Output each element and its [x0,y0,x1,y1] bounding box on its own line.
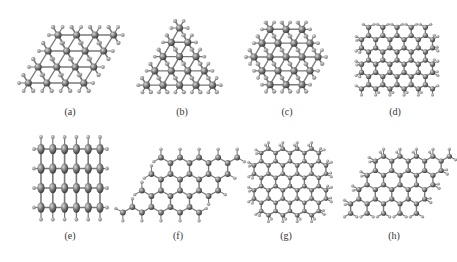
heavy-atom [25,79,32,86]
heavy-atom [381,182,386,187]
hydrogen-atom [344,203,347,206]
hydrogen-atom [47,33,51,37]
hydrogen-atom [77,73,81,77]
heavy-atom [259,151,264,156]
hydrogen-atom [21,73,25,77]
hydrogen-atom [152,160,155,163]
hydrogen-atom [437,187,440,190]
heavy-atom [316,200,321,205]
heavy-atom [430,173,435,178]
heavy-atom [406,187,411,192]
heavy-atom [356,187,361,192]
heavy-atom [85,163,92,173]
panel-b-triangular-triangle [136,19,222,94]
hydrogen-atom [61,25,65,29]
hydrogen-atom [169,26,173,30]
hydrogen-atom [272,62,276,66]
heavy-atom [96,183,103,193]
hydrogen-atom [206,76,210,80]
hydrogen-atom [278,144,281,147]
heavy-atom [259,209,264,214]
hydrogen-atom [37,49,41,53]
hydrogen-atom [75,135,79,139]
heavy-atom [373,86,378,91]
panel-d-honeycomb-square [355,23,440,97]
hydrogen-atom [326,184,329,187]
heavy-atom [158,188,164,194]
hydrogen-atom [428,150,431,153]
heavy-atom [91,31,98,38]
hydrogen-atom [148,62,152,66]
heavy-atom [149,171,155,177]
heavy-atom [397,211,402,216]
hydrogen-atom [324,55,328,59]
hydrogen-atom [87,89,91,93]
hydrogen-atom [98,218,102,222]
hydrogen-atom [313,76,317,80]
heavy-atom [273,176,278,181]
hydrogen-atom [78,41,82,45]
hydrogen-atom [116,25,120,29]
hydrogen-atom [39,218,43,222]
heavy-atom [196,155,202,161]
hydrogen-atom [206,62,210,66]
hydrogen-atom [321,62,325,66]
hydrogen-atom [41,41,45,45]
hydrogen-atom [288,62,292,66]
hydrogen-atom [351,184,354,187]
heavy-atom [139,188,145,194]
heavy-atom [295,171,300,176]
heavy-atom [366,33,371,38]
heavy-atom [176,82,183,89]
heavy-atom [266,81,273,88]
heavy-atom [100,47,107,54]
hydrogen-atom [194,40,198,44]
heavy-atom [387,37,392,42]
hydrogen-atom [355,35,358,38]
hydrogen-atom [421,215,424,218]
hydrogen-atom [51,135,55,139]
hydrogen-atom [178,219,181,222]
heavy-atom [35,63,42,70]
heavy-atom [288,200,293,205]
hydrogen-atom [355,39,358,42]
heavy-atom [177,177,183,183]
heavy-atom [206,193,212,199]
hydrogen-atom [63,218,67,222]
hydrogen-atom [446,172,449,175]
heavy-atom [209,82,216,89]
heavy-atom [288,159,293,164]
hydrogen-atom [296,48,300,52]
heavy-atom [366,82,371,87]
heavy-atom [439,158,444,163]
heavy-atom [225,160,231,166]
hydrogen-atom [131,197,134,200]
hydrogen-atom [256,35,260,39]
hydrogen-atom [121,33,125,37]
heavy-atom [96,163,103,173]
panel-a-triangular-rhombus [17,25,125,93]
heavy-atom [314,53,321,60]
hydrogen-atom [401,23,404,26]
hydrogen-atom [436,49,439,52]
hydrogen-atom [59,89,63,93]
hydrogen-atom [202,55,206,59]
hydrogen-atom [106,25,110,29]
heavy-atom [72,63,79,70]
hydrogen-atom [252,69,256,73]
heavy-atom [196,177,202,183]
heavy-atom [45,47,52,54]
panel-label-d: (d) [389,106,401,117]
heavy-atom [53,63,60,70]
heavy-atom [389,187,394,192]
heavy-atom [168,193,174,199]
hydrogen-atom [244,55,248,59]
heavy-atom [381,173,386,178]
hydrogen-atom [258,214,261,217]
hydrogen-atom [51,218,55,222]
panel-h-honeycomb-buckled [343,148,457,219]
heavy-atom [302,159,307,164]
heavy-atom [447,154,452,159]
panel-e-square-lattice [32,135,109,221]
hydrogen-atom [189,48,193,52]
